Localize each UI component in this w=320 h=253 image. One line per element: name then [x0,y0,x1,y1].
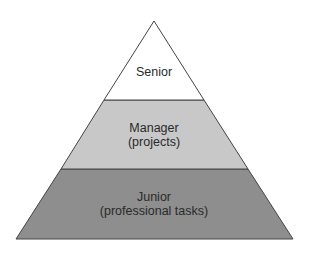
pyramid-level-senior [104,21,204,100]
label-manager-line2: (projects) [54,135,254,149]
label-manager: Manager (projects) [54,121,254,149]
label-senior: Senior [54,65,254,79]
label-senior-line1: Senior [54,65,254,79]
label-junior: Junior (professional tasks) [54,190,254,218]
label-manager-line1: Manager [54,121,254,135]
label-junior-line2: (professional tasks) [54,204,254,218]
label-junior-line1: Junior [54,190,254,204]
